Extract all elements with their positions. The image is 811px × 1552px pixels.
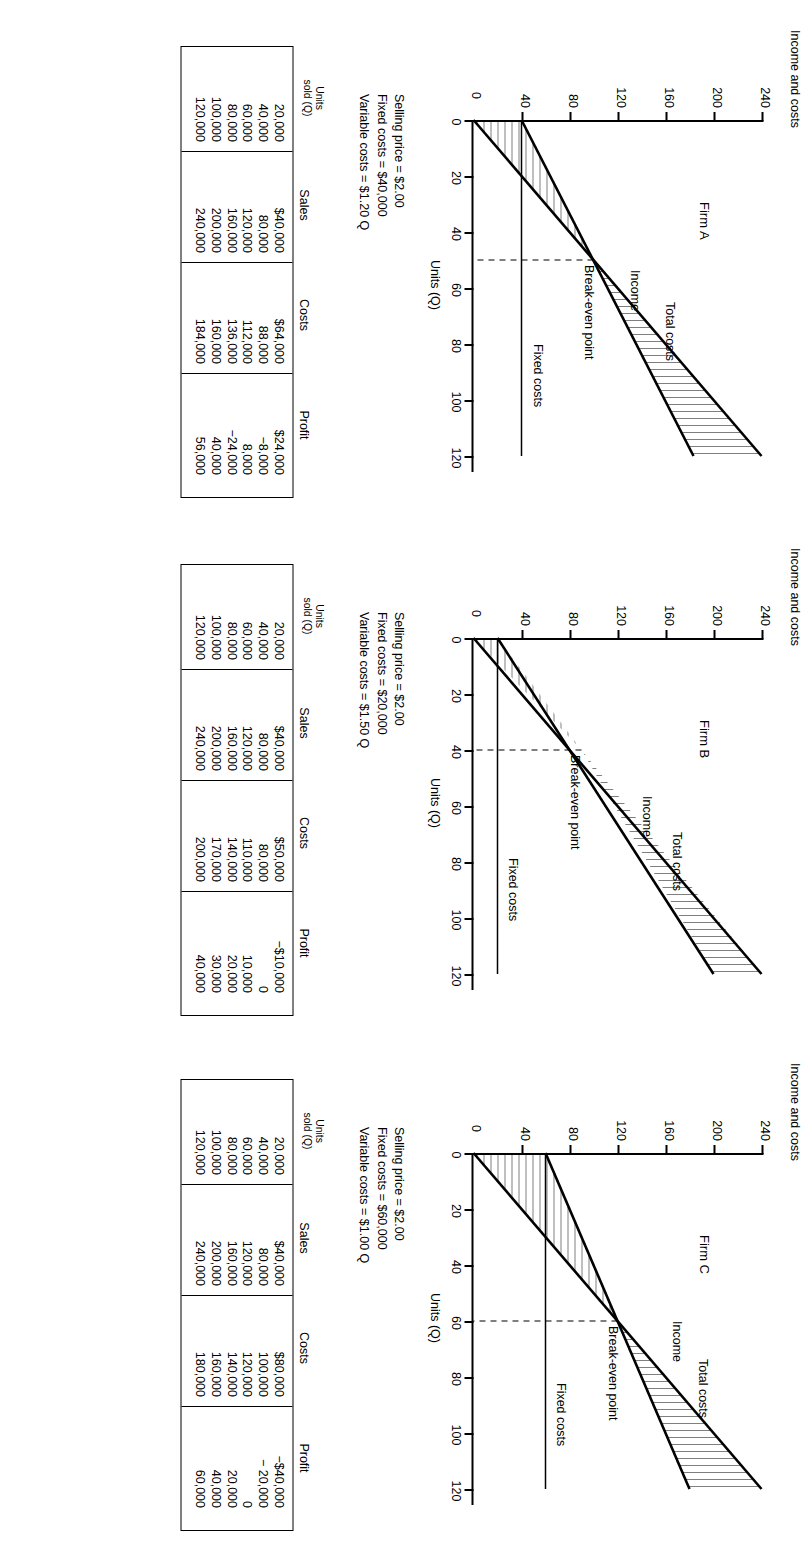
table-firm-a: Units sold (Q) Sales Costs Profit 20,000… <box>181 46 325 498</box>
table-cell: 40,000 <box>191 901 207 993</box>
table-header-row: Units sold (Q) Sales Costs Profit <box>293 46 324 498</box>
fixed-costs-label: Fixed costs <box>505 858 519 921</box>
table-cell: 120,000 <box>191 574 207 660</box>
income-label: Income <box>669 1321 683 1362</box>
table-cell: 100,000 <box>206 1089 222 1175</box>
header-profit: Profit <box>296 888 324 998</box>
panel-firm-c: Income and costs 240 200 160 120 80 40 0… <box>0 1055 811 1552</box>
table-cell: 160,000 <box>206 1305 222 1397</box>
header-costs: Costs <box>296 1293 324 1403</box>
selling-price-line: Selling price = $2.00 <box>389 94 406 230</box>
plot-area-firm-c <box>441 1115 771 1515</box>
firm-title: Firm C <box>696 1235 711 1274</box>
table-cell: 60,000 <box>238 574 254 660</box>
table-cell: 200,000 <box>206 161 222 253</box>
table-firm-b: Units sold (Q) Sales Costs Profit 20,000… <box>181 564 325 1016</box>
fixed-costs-label: Fixed costs <box>553 1383 567 1446</box>
header-sales: Sales <box>296 1183 324 1293</box>
params-firm-c: Selling price = $2.00 Fixed costs = $60,… <box>354 1127 406 1263</box>
panel-firm-a: Income and costs 240 200 160 120 80 40 0… <box>0 22 811 522</box>
table-cell: 160,000 <box>222 1194 238 1286</box>
table-grid: 20,000 40,000 60,000 80,000 100,000 120,… <box>181 46 294 498</box>
plot-area-firm-a <box>441 82 771 482</box>
total-costs-line <box>497 638 713 974</box>
column-sales: $40,000 80,000 120,000 160,000 200,000 2… <box>182 1185 293 1296</box>
header-profit: Profit <box>296 1403 324 1513</box>
chart-firm-a: Income and costs 240 200 160 120 80 40 0… <box>441 82 771 482</box>
header-sales: Sales <box>296 668 324 778</box>
table-cell: 80,000 <box>222 1089 238 1175</box>
column-units: 20,000 40,000 60,000 80,000 100,000 120,… <box>182 565 293 670</box>
table-cell: 40,000 <box>254 1089 270 1175</box>
table-cell: −24,000 <box>222 383 238 475</box>
column-costs: $50,000 80,000 110,000 140,000 170,000 2… <box>182 781 293 892</box>
break-even-label: Break-even point <box>605 1326 619 1421</box>
table-cell: 80,000 <box>254 679 270 771</box>
income-line <box>473 638 761 974</box>
variable-costs-line: Variable costs = $1.50 Q <box>354 612 371 748</box>
params-firm-a: Selling price = $2.00 Fixed costs = $40,… <box>354 94 406 230</box>
x-axis-title: Units (Q) <box>427 778 441 828</box>
table-cell: 136,000 <box>222 272 238 364</box>
table-cell: 100,000 <box>206 56 222 142</box>
table-cell: 184,000 <box>191 272 207 364</box>
variable-costs-line: Variable costs = $1.00 Q <box>354 1127 371 1263</box>
table-cell: 0 <box>254 901 270 993</box>
table-cell: 60,000 <box>238 1089 254 1175</box>
total-costs-line <box>521 120 693 456</box>
table-cell: 170,000 <box>206 790 222 882</box>
table-grid: 20,000 40,000 60,000 80,000 100,000 120,… <box>181 564 294 1016</box>
table-cell: 56,000 <box>191 383 207 475</box>
column-costs: $64,000 88,000 112,000 136,000 160,000 1… <box>182 263 293 374</box>
table-cell: 200,000 <box>191 790 207 882</box>
income-line <box>473 120 761 456</box>
table-cell: 160,000 <box>222 161 238 253</box>
table-cell: 120,000 <box>191 1089 207 1175</box>
header-sales: Sales <box>296 150 324 260</box>
table-cell: $40,000 <box>269 1194 285 1286</box>
header-costs: Costs <box>296 778 324 888</box>
table-cell: 80,000 <box>254 1194 270 1286</box>
table-firm-c: Units sold (Q) Sales Costs Profit 20,000… <box>181 1079 325 1531</box>
income-label: Income <box>639 796 653 837</box>
table-cell: 140,000 <box>222 790 238 882</box>
table-cell: 240,000 <box>191 679 207 771</box>
y-axis-title: Income and costs <box>787 1063 801 1161</box>
break-even-label: Break-even point <box>581 265 595 360</box>
table-cell: 120,000 <box>238 1305 254 1397</box>
table-cell: 20,000 <box>222 1416 238 1508</box>
table-cell: 112,000 <box>238 272 254 364</box>
y-axis-title: Income and costs <box>787 30 801 128</box>
table-cell: 20,000 <box>269 574 285 660</box>
x-axis-title: Units (Q) <box>427 1293 441 1343</box>
table-cell: $40,000 <box>269 161 285 253</box>
table-cell: 80,000 <box>222 56 238 142</box>
plot-area-firm-b <box>441 600 771 1000</box>
column-profit: −$10,000 0 10,000 20,000 30,000 40,000 <box>182 892 293 1002</box>
table-cell: 80,000 <box>254 161 270 253</box>
selling-price-line: Selling price = $2.00 <box>389 612 406 748</box>
column-units: 20,000 40,000 60,000 80,000 100,000 120,… <box>182 47 293 152</box>
total-costs-label: Total costs <box>662 302 676 361</box>
table-cell: −$10,000 <box>269 901 285 993</box>
chart-firm-c: Income and costs 240 200 160 120 80 40 0… <box>441 1115 771 1515</box>
table-cell: 100,000 <box>206 574 222 660</box>
table-cell: 80,000 <box>254 790 270 882</box>
fixed-costs-line: Fixed costs = $40,000 <box>372 94 389 230</box>
firm-title: Firm B <box>696 720 711 758</box>
table-cell: 30,000 <box>206 901 222 993</box>
table-cell: 20,000 <box>269 56 285 142</box>
table-grid: 20,000 40,000 60,000 80,000 100,000 120,… <box>181 1079 294 1531</box>
table-cell: 88,000 <box>254 272 270 364</box>
income-label: Income <box>627 270 641 311</box>
table-cell: 240,000 <box>191 1194 207 1286</box>
column-costs: $80,000 100,000 120,000 140,000 160,000 … <box>182 1296 293 1407</box>
column-sales: $40,000 80,000 120,000 160,000 200,000 2… <box>182 670 293 781</box>
table-cell: 100,000 <box>254 1305 270 1397</box>
x-axis-title: Units (Q) <box>427 260 441 310</box>
figure-canvas: Income and costs 240 200 160 120 80 40 0… <box>0 0 811 1552</box>
table-cell: 8,000 <box>238 383 254 475</box>
y-axis-title: Income and costs <box>787 548 801 646</box>
table-cell: 120,000 <box>191 56 207 142</box>
table-cell: 20,000 <box>222 901 238 993</box>
